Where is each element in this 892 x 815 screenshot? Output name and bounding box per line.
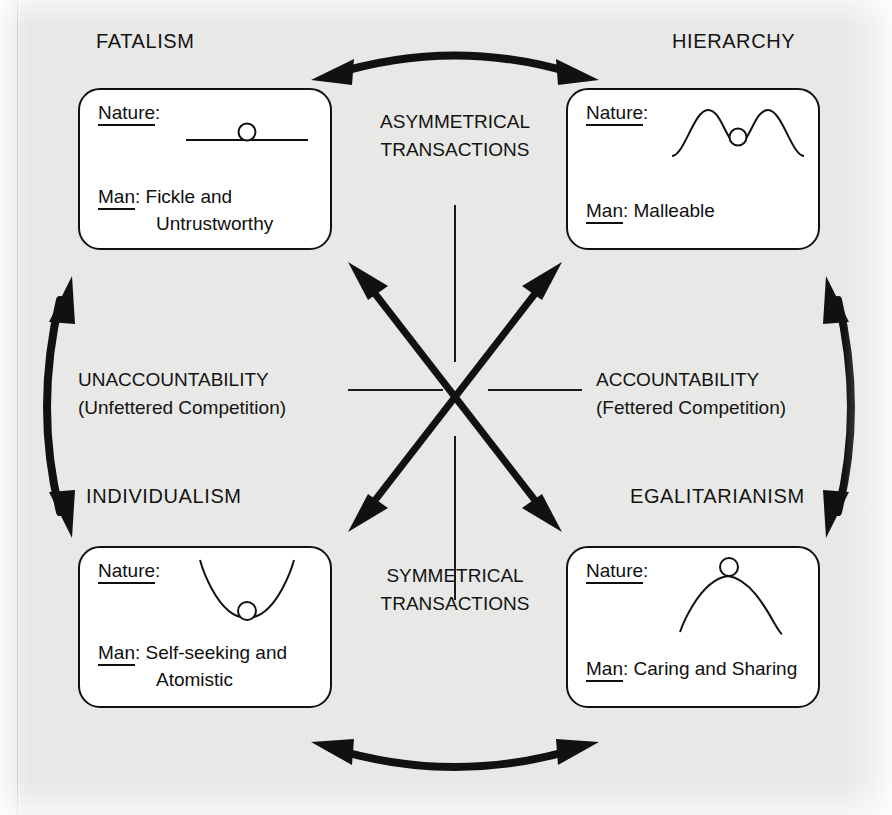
hierarchy-nature-word: Nature bbox=[586, 102, 643, 126]
axis-label-unaccountability-line1: UNACCOUNTABILITY bbox=[78, 366, 338, 394]
egalitarianism-man-word: Man bbox=[586, 658, 623, 682]
quadrant-title-fatalism: FATALISM bbox=[96, 30, 195, 53]
two-peaks-ball-in-valley-icon bbox=[668, 100, 808, 162]
fatalism-man-value-line2: Untrustworthy bbox=[156, 213, 273, 235]
fatalism-nature-word: Nature bbox=[98, 102, 155, 126]
flat-line-with-ball-icon bbox=[184, 112, 310, 152]
fatalism-nature-colon: : bbox=[155, 102, 160, 123]
basin-ball-at-bottom-icon bbox=[194, 556, 300, 634]
axis-label-asymmetrical: ASYMMETRICAL TRANSACTIONS bbox=[355, 108, 555, 164]
egalitarianism-man-line: Man: Caring and Sharing bbox=[586, 658, 797, 680]
axis-label-accountability-line1: ACCOUNTABILITY bbox=[596, 366, 866, 394]
quadrant-card-individualism: Nature: Man: Self-seeking and Atomistic bbox=[78, 546, 332, 708]
hierarchy-man-separator: : bbox=[623, 200, 634, 221]
page-edge-line bbox=[17, 0, 18, 815]
quadrant-card-fatalism: Nature: Man: Fickle and Untrustworthy bbox=[78, 88, 332, 250]
fatalism-nature-label: Nature: bbox=[98, 102, 160, 124]
quadrant-card-hierarchy: Nature: Man: Malleable bbox=[566, 88, 820, 250]
hierarchy-man-word: Man bbox=[586, 200, 623, 224]
quadrant-title-individualism: INDIVIDUALISM bbox=[86, 485, 242, 508]
individualism-nature-colon: : bbox=[155, 560, 160, 581]
individualism-nature-label: Nature: bbox=[98, 560, 160, 582]
quadrant-title-hierarchy: HIERARCHY bbox=[672, 30, 795, 53]
individualism-man-value-line1: Self-seeking and bbox=[146, 642, 288, 663]
hierarchy-man-value-line1: Malleable bbox=[634, 200, 715, 221]
axis-label-symmetrical: SYMMETRICAL TRANSACTIONS bbox=[355, 562, 555, 618]
egalitarianism-man-separator: : bbox=[623, 658, 634, 679]
axis-label-accountability: ACCOUNTABILITY (Fettered Competition) bbox=[596, 366, 866, 422]
hierarchy-nature-label: Nature: bbox=[586, 102, 648, 124]
axis-label-symmetrical-line1: SYMMETRICAL bbox=[355, 562, 555, 590]
hierarchy-nature-colon: : bbox=[643, 102, 648, 123]
egalitarianism-nature-label: Nature: bbox=[586, 560, 648, 582]
egalitarianism-nature-colon: : bbox=[643, 560, 648, 581]
fatalism-man-word: Man bbox=[98, 186, 135, 210]
individualism-nature-word: Nature bbox=[98, 560, 155, 584]
axis-label-asymmetrical-line2: TRANSACTIONS bbox=[355, 136, 555, 164]
curved-arrow-top bbox=[311, 56, 599, 86]
curved-arrow-bottom bbox=[311, 739, 599, 767]
egalitarianism-nature-word: Nature bbox=[586, 560, 643, 584]
axis-label-unaccountability-line2: (Unfettered Competition) bbox=[78, 394, 338, 422]
individualism-man-line: Man: Self-seeking and bbox=[98, 642, 287, 664]
diagram-page: FATALISM HIERARCHY INDIVIDUALISM EGALITA… bbox=[0, 0, 892, 815]
axis-label-accountability-line2: (Fettered Competition) bbox=[596, 394, 866, 422]
individualism-man-value-line2: Atomistic bbox=[156, 669, 233, 691]
fatalism-man-value-line1: Fickle and bbox=[146, 186, 233, 207]
egalitarianism-man-value-line1: Caring and Sharing bbox=[634, 658, 798, 679]
fatalism-man-separator: : bbox=[135, 186, 146, 207]
quadrant-title-egalitarianism: EGALITARIANISM bbox=[630, 485, 805, 508]
axis-label-unaccountability: UNACCOUNTABILITY (Unfettered Competition… bbox=[78, 366, 338, 422]
axis-cross bbox=[348, 205, 582, 600]
curved-arrow-left bbox=[47, 276, 75, 538]
quadrant-card-egalitarianism: Nature: Man: Caring and Sharing bbox=[566, 546, 820, 708]
axis-label-asymmetrical-line1: ASYMMETRICAL bbox=[355, 108, 555, 136]
peak-ball-on-top-icon bbox=[672, 554, 790, 636]
hierarchy-man-line: Man: Malleable bbox=[586, 200, 715, 222]
individualism-man-word: Man bbox=[98, 642, 135, 666]
axis-label-symmetrical-line2: TRANSACTIONS bbox=[355, 590, 555, 618]
individualism-man-separator: : bbox=[135, 642, 146, 663]
fatalism-man-line: Man: Fickle and bbox=[98, 186, 232, 208]
